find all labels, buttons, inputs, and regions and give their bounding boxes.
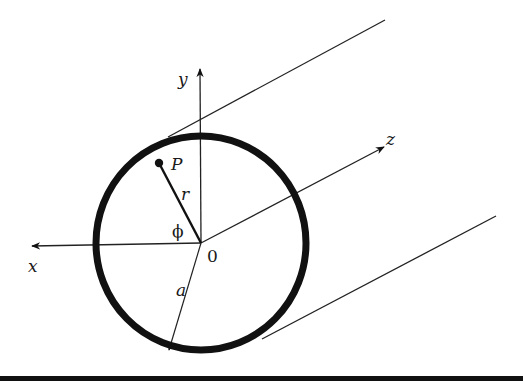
point-p-label: P (170, 154, 183, 174)
y-axis-label: y (177, 69, 188, 89)
radial-distance-label: r (181, 184, 190, 204)
x-axis (32, 243, 201, 246)
bottom-rule (0, 376, 523, 381)
point-p-marker (155, 159, 163, 167)
radius-a-label: a (176, 280, 186, 300)
x-axis-label: x (28, 256, 38, 276)
y-axis (200, 69, 201, 243)
origin-label: 0 (207, 246, 218, 266)
z-axis-label: z (385, 129, 396, 149)
cylinder-coordinate-diagram: x y z 0 P r ϕ a (0, 0, 523, 382)
angle-phi-label: ϕ (172, 221, 184, 241)
